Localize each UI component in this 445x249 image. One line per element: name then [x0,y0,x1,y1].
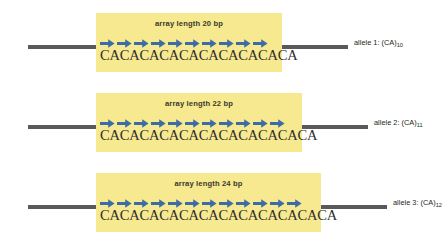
allele-caption: allele 3: (CA)12 [393,198,442,207]
array-length-label: array length 22 bp [96,99,302,108]
repeat-sequence-text: CACACACACACACACACACA [100,48,297,63]
repeat-sequence-text: CACACACACACACACACACACACA [100,208,337,223]
allele-caption: allele 1: (CA)10 [354,38,403,47]
allele-repeat-count-subscript: 11 [417,122,423,128]
dna-flanking-line-left [28,45,96,49]
allele-caption-text: allele 3: (CA) [393,198,436,207]
dna-flanking-line-left [28,125,96,129]
allele-caption-text: allele 2: (CA) [374,118,417,127]
str-allele-diagram: array length 20 bpCACACACACACACACACACAal… [0,0,445,249]
allele-caption-text: allele 1: (CA) [354,38,397,47]
repeat-array-highlight-box: array length 22 bpCACACACACACACACACACACA [96,93,302,152]
repeat-sequence-text: CACACACACACACACACACACA [100,128,317,143]
repeat-array-highlight-box: array length 24 bpCACACACACACACACACACACA… [96,173,321,232]
repeat-array-highlight-box: array length 20 bpCACACACACACACACACACA [96,13,282,72]
array-length-label: array length 24 bp [96,179,321,188]
allele-repeat-count-subscript: 10 [397,42,403,48]
allele-caption: allele 2: (CA)11 [374,118,423,127]
dna-flanking-line-left [28,205,96,209]
array-length-label: array length 20 bp [96,19,282,28]
allele-repeat-count-subscript: 12 [436,202,442,208]
